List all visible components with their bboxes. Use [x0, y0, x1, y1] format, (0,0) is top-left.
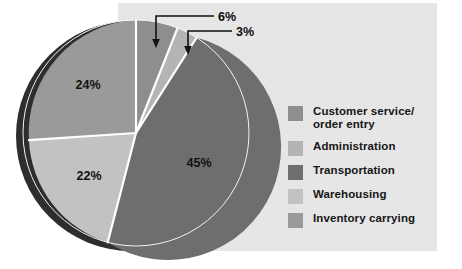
slice-label-fortyfive: 45%: [186, 156, 211, 170]
legend-item-warehousing[interactable]: Warehousing: [288, 188, 438, 204]
legend-swatch-administration: [288, 141, 303, 156]
legend-swatch-warehousing: [288, 189, 303, 204]
callout-label-three: 3%: [236, 25, 254, 39]
slice-label-twentyfour: 24%: [75, 78, 100, 92]
legend-item-inventory-carrying[interactable]: Inventory carrying: [288, 212, 438, 228]
legend-swatch-customer-service: [288, 106, 303, 121]
legend-label-administration: Administration: [313, 140, 396, 153]
legend-swatch-inventory-carrying: [288, 213, 303, 228]
legend-item-transportation[interactable]: Transportation: [288, 164, 438, 180]
legend-label-warehousing: Warehousing: [313, 188, 387, 201]
legend-label-inventory-carrying: Inventory carrying: [313, 212, 415, 225]
legend-item-administration[interactable]: Administration: [288, 140, 438, 156]
chart-legend: Customer service/ order entry Administra…: [288, 105, 438, 236]
legend-label-transportation: Transportation: [313, 164, 395, 177]
legend-item-customer-service[interactable]: Customer service/ order entry: [288, 105, 438, 130]
callout-label-six: 6%: [218, 10, 236, 24]
legend-label-customer-service: Customer service/ order entry: [313, 105, 414, 130]
slice-label-twentytwo: 22%: [76, 169, 101, 183]
pie-chart-figure: 6% 3% 24% 22% 45% Customer service/ orde…: [0, 0, 462, 269]
legend-swatch-transportation: [288, 165, 303, 180]
